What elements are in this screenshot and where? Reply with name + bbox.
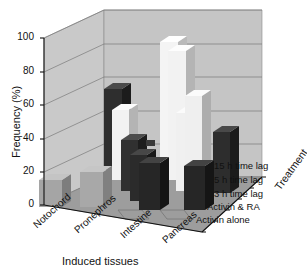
x-axis-title: Induced tissues bbox=[62, 255, 138, 267]
z-tick-label-3h: 3 h time lag bbox=[214, 188, 263, 199]
z-tick-label-activin-alone: Activin alone bbox=[196, 214, 250, 225]
y-tick-label-0: 0 bbox=[10, 198, 34, 209]
y-tick-label-20: 20 bbox=[10, 165, 34, 176]
bar-small-marker bbox=[146, 140, 155, 146]
z-tick-label-15h: 15 h time lag bbox=[214, 160, 268, 171]
chart-canvas bbox=[0, 0, 307, 271]
y-tick-label-60: 60 bbox=[10, 98, 34, 109]
bar-intestine-front-dark bbox=[139, 157, 169, 210]
y-tick-label-100: 100 bbox=[10, 31, 34, 42]
z-tick-label-5h: 5 h time lag bbox=[214, 174, 263, 185]
z-tick-label-activin-ra: Activin & RA bbox=[207, 201, 260, 212]
y-tick-label-40: 40 bbox=[10, 132, 34, 143]
chart-3d-bar: Frequency (%) 100 80 60 40 20 0 Notochor… bbox=[0, 0, 307, 271]
y-axis-title: Frequency (%) bbox=[10, 86, 22, 158]
y-tick-label-80: 80 bbox=[10, 65, 34, 76]
